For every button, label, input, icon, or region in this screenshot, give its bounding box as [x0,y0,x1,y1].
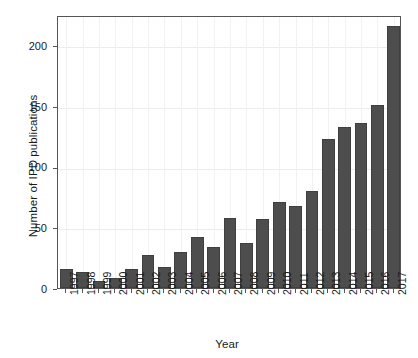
bar[interactable] [387,26,400,288]
bar[interactable] [322,139,335,288]
x-tick-mark [295,289,296,293]
x-tick-label: 2005 [200,272,211,295]
x-tick-label: 2012 [315,272,326,295]
x-tick-mark [180,289,181,293]
x-tick-label: 1998 [86,272,97,295]
x-tick-label: 2008 [249,272,260,295]
y-tick-label: 100 [11,162,47,173]
x-tick-label: 2000 [118,272,129,295]
bar-chart-figure: Number of IPD publications 050100150200 … [0,0,418,358]
x-tick-label: 2009 [266,272,277,295]
x-tick-label: 2017 [397,272,408,295]
x-tick-label: 2001 [135,272,146,295]
x-tick-label: 2003 [167,272,178,295]
x-tick-label: 2015 [364,272,375,295]
x-tick-mark [82,289,83,293]
y-tick-mark [53,168,57,169]
x-tick-mark [131,289,132,293]
x-tick-mark [229,289,230,293]
x-tick-label: 1999 [102,272,113,295]
x-tick-label: 2011 [299,272,310,295]
x-tick-label: 2010 [282,272,293,295]
x-tick-mark [213,289,214,293]
y-tick-mark [53,289,57,290]
x-tick-mark [393,289,394,293]
x-tick-mark [147,289,148,293]
x-tick-label: 2007 [233,272,244,295]
x-tick-mark [360,289,361,293]
x-tick-label: 2014 [348,272,359,295]
x-tick-mark [245,289,246,293]
x-tick-mark [196,289,197,293]
x-tick-mark [327,289,328,293]
y-tick-mark [53,107,57,108]
x-tick-label: 1997 [69,272,80,295]
plot-area [57,16,401,289]
y-tick-label: 50 [11,223,47,234]
bar-series [58,17,400,288]
x-tick-mark [114,289,115,293]
x-tick-label: 2013 [331,272,342,295]
x-axis-title: Year [57,338,397,350]
x-tick-mark [98,289,99,293]
x-tick-label: 2016 [380,272,391,295]
x-tick-mark [344,289,345,293]
x-tick-label: 2004 [184,272,195,295]
bar[interactable] [371,105,384,288]
x-tick-mark [278,289,279,293]
x-tick-mark [311,289,312,293]
y-tick-label: 0 [11,284,47,295]
bar[interactable] [355,123,368,288]
x-tick-label: 2002 [151,272,162,295]
x-tick-mark [262,289,263,293]
x-tick-mark [65,289,66,293]
x-tick-label: 2006 [217,272,228,295]
y-tick-label: 150 [11,102,47,113]
y-tick-label: 200 [11,41,47,52]
x-tick-mark [163,289,164,293]
x-tick-mark [376,289,377,293]
y-tick-mark [53,46,57,47]
y-tick-mark [53,228,57,229]
bar[interactable] [338,127,351,288]
